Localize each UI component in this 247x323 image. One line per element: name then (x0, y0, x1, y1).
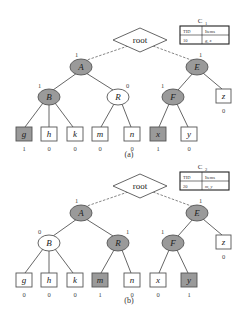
node-A-label: A (77, 208, 84, 218)
node-A-count: 1 (75, 51, 78, 58)
leaf-count: 0 (47, 145, 50, 152)
leaf-count: 0 (73, 145, 76, 152)
node-z-label: z (221, 237, 226, 247)
leaf-label: y (186, 275, 191, 285)
leaf-label: g (22, 129, 27, 139)
transaction-table: C 1 TID Items 10 g, x (180, 17, 229, 44)
node-A-label: A (77, 62, 84, 72)
root-label: root (133, 35, 148, 45)
node-B-count: 1 (38, 82, 41, 89)
node-R-count: 1 (126, 228, 129, 235)
node-B-label: B (46, 238, 52, 248)
table-header-tid: TID (183, 175, 191, 180)
node-F-count: 1 (161, 228, 164, 235)
node-A-count: 1 (75, 197, 78, 204)
panel-caption: (a) (125, 150, 134, 159)
leaf-count: 1 (187, 291, 190, 298)
leaf-count: 0 (73, 291, 76, 298)
node-E-count: 1 (199, 51, 202, 58)
node-E-count: 1 (199, 197, 202, 204)
leaf-row: g0h0k0m1n0x0y1 (16, 273, 197, 298)
table-header-tid: TID (183, 29, 191, 34)
leaf-row: g1h0k0m0n0x1y0 (16, 127, 197, 152)
leaf-label: x (155, 275, 160, 285)
table-cell-tid: 10 (183, 38, 188, 43)
leaf-label: h (47, 129, 52, 139)
leaf-label: n (130, 275, 135, 285)
leaf-label: h (47, 275, 52, 285)
node-R-count: 0 (126, 82, 129, 89)
node-R-label: R (114, 238, 121, 248)
table-title-subscript: 2 (205, 167, 207, 172)
node-F-label: F (169, 92, 176, 102)
leaf-label: m (97, 129, 104, 139)
leaf-label: g (22, 275, 27, 285)
node-F-label: F (169, 238, 176, 248)
node-z-label: z (221, 91, 226, 101)
transaction-table: C 2 TID Items 20 m, y (180, 163, 229, 190)
leaf-label: m (97, 275, 104, 285)
node-F-count: 1 (161, 82, 164, 89)
leaf-count: 1 (22, 145, 25, 152)
leaf-count: 1 (98, 291, 101, 298)
node-B-count: 0 (38, 228, 41, 235)
table-title-subscript: 1 (205, 21, 207, 26)
node-z-count: 0 (222, 107, 225, 114)
node-z-count: 0 (222, 253, 225, 260)
leaf-label: n (130, 129, 135, 139)
leaf-count: 0 (156, 291, 159, 298)
leaf-label: x (155, 129, 160, 139)
node-B-label: B (46, 92, 52, 102)
root-label: root (133, 181, 148, 191)
table-header-items: Items (205, 175, 215, 180)
leaf-count: 1 (156, 145, 159, 152)
leaf-label: y (186, 129, 191, 139)
node-E-label: E (193, 62, 200, 72)
leaf-count: 0 (98, 145, 101, 152)
tree-panel-a: root A 1 E 1 B 1 R 0 F 1 z 0 g1h0k0m0n0x… (16, 17, 231, 159)
node-E-label: E (193, 208, 200, 218)
table-title: C (198, 17, 203, 25)
tree-panel-b: root A 1 E 1 B 0 R 1 F 1 z 0 g0h0k0m1n0x… (16, 163, 231, 305)
table-cell-tid: 20 (183, 184, 188, 189)
leaf-count: 0 (22, 291, 25, 298)
leaf-count: 0 (47, 291, 50, 298)
table-header-items: Items (205, 29, 215, 34)
panel-caption: (b) (124, 296, 134, 305)
node-R-label: R (114, 92, 121, 102)
table-title: C (198, 163, 203, 171)
leaf-count: 0 (187, 145, 190, 152)
